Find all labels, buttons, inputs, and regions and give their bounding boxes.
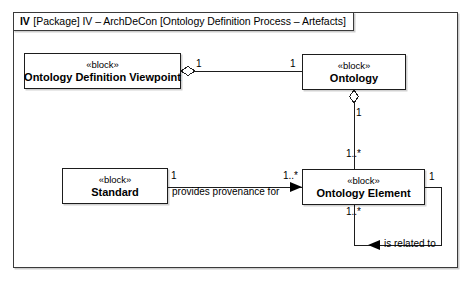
multiplicity-element-right: 1 (429, 171, 435, 182)
block-standard[interactable]: «block» Standard (62, 168, 168, 204)
association-label-provides-provenance-for: provides provenance for (172, 186, 279, 197)
block-name: Ontology (330, 72, 378, 85)
multiplicity-element-left: 1..* (283, 170, 298, 181)
multiplicity-viewpoint-right: 1 (196, 58, 202, 69)
block-stereotype: «block» (347, 175, 380, 187)
association-label-is-related-to: is related to (384, 238, 436, 249)
block-ontology-element[interactable]: «block» Ontology Element (302, 169, 425, 205)
block-stereotype: «block» (99, 174, 132, 186)
block-name: Ontology Element (316, 187, 410, 200)
package-title-tab: IV [Package] IV – ArchDeCon [Ontology De… (13, 12, 354, 31)
block-stereotype: «block» (338, 60, 371, 72)
multiplicity-standard-right: 1 (171, 170, 177, 181)
block-stereotype: «block» (86, 59, 119, 71)
multiplicity-ontology-bottom: 1 (356, 107, 362, 118)
uml-diagram-canvas: IV [Package] IV – ArchDeCon [Ontology De… (0, 0, 474, 294)
package-frame (13, 12, 458, 268)
block-ontology-definition-viewpoint[interactable]: «block» Ontology Definition Viewpoint (24, 53, 181, 89)
multiplicity-element-top: 1..* (346, 148, 361, 159)
block-name: Ontology Definition Viewpoint (24, 71, 181, 84)
package-tab-roman-numeral: IV (20, 16, 30, 27)
block-ontology[interactable]: «block» Ontology (302, 54, 406, 90)
multiplicity-ontology-left: 1 (290, 58, 296, 69)
multiplicity-element-bottom: 1..* (346, 206, 361, 217)
package-tab-label: [Package] IV – ArchDeCon [Ontology Defin… (33, 16, 345, 27)
block-name: Standard (91, 186, 139, 199)
